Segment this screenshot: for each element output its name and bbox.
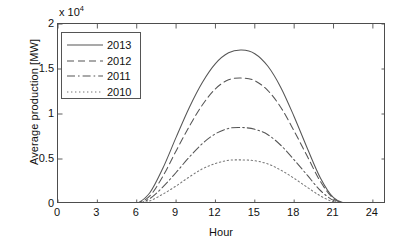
series-line-2010 — [58, 160, 373, 203]
x-axis-tick-label: 24 — [354, 206, 390, 218]
x-axis-tick-label: 6 — [118, 206, 154, 218]
y-axis-multiplier: x 104 — [59, 4, 84, 18]
y-axis-multiplier-base: x 10 — [59, 6, 80, 18]
legend-line-sample-dotted — [66, 86, 104, 98]
legend-label: 2013 — [107, 39, 131, 51]
legend-item-2013[interactable]: 2013 — [62, 37, 140, 53]
legend-line-sample-dashed — [66, 55, 104, 67]
x-axis-tick-label: 3 — [78, 206, 114, 218]
legend-item-2011[interactable]: 2011 — [62, 68, 140, 84]
legend-box: 2013201220112010 — [61, 32, 141, 99]
y-axis-tick-label: 2 — [8, 17, 54, 29]
legend-item-2010[interactable]: 2010 — [62, 84, 140, 100]
legend-label: 2012 — [107, 55, 131, 67]
x-axis-tick-label: 18 — [275, 206, 311, 218]
x-axis-tick-label: 21 — [315, 206, 351, 218]
y-axis-tick-label: 1 — [8, 107, 54, 119]
x-axis-tick-label: 0 — [39, 206, 75, 218]
y-axis-tick-label: 1.5 — [8, 62, 54, 74]
y-axis-tick-label: 0.5 — [8, 152, 54, 164]
legend-item-2012[interactable]: 2012 — [62, 53, 140, 69]
legend-line-sample-dashdot — [66, 70, 104, 82]
x-axis-title: Hour — [57, 226, 385, 238]
y-axis-multiplier-exponent: 4 — [80, 4, 84, 13]
x-axis-tick-label: 12 — [196, 206, 232, 218]
x-axis-tick-label: 9 — [157, 206, 193, 218]
legend-label: 2011 — [107, 70, 131, 82]
legend-label: 2010 — [107, 86, 131, 98]
legend-line-sample-solid — [66, 39, 104, 51]
series-line-2011 — [58, 127, 373, 203]
x-axis-tick-label: 15 — [236, 206, 272, 218]
figure-canvas: x 104 Average production [MW] 00.511.52 … — [0, 0, 404, 250]
